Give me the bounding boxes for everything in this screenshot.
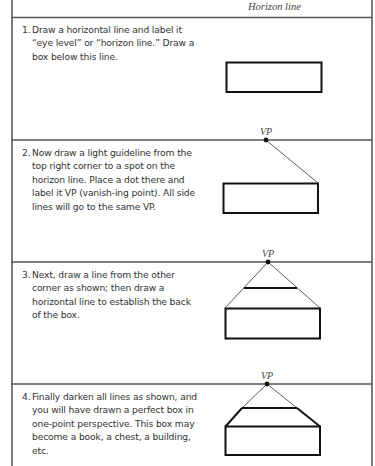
vanishing-point-dot (265, 382, 270, 387)
step-number: 3. (22, 268, 30, 281)
vp-label-step-3: VP (262, 248, 274, 259)
vanishing-point-dot (264, 138, 269, 143)
perspective-instruction-page: Horizon line (0, 0, 375, 466)
guideline-right (267, 384, 297, 408)
box-step-3 (226, 309, 321, 339)
guideline-right (266, 140, 318, 183)
drawing-step-2 (224, 138, 319, 213)
box-step-2 (224, 184, 319, 214)
step-3-instruction: 3. Next, draw a line from the other corn… (22, 268, 202, 322)
step-number: 4. (22, 390, 30, 403)
step-4-instruction: 4. Finally darken all lines as shown, an… (22, 390, 202, 457)
step-number: 2. (22, 146, 30, 159)
box-step-4 (226, 427, 321, 456)
step-text: Draw a horizontal line and label it “eye… (22, 23, 202, 63)
box-step-1 (227, 63, 322, 93)
step-2-instruction: 2. Now draw a light guideline from the t… (22, 146, 202, 213)
side-edge-right (297, 408, 320, 427)
step-number: 1. (22, 23, 30, 36)
side-edge-left (226, 408, 243, 427)
vp-label-step-4: VP (261, 370, 273, 381)
step-text: Now draw a light guideline from the top … (22, 146, 202, 213)
step-1-instruction: 1. Draw a horizontal line and label it “… (22, 23, 202, 63)
drawing-step-4 (226, 382, 321, 455)
step-text: Next, draw a line from the other corner … (22, 268, 202, 322)
step-text: Finally darken all lines as shown, and y… (22, 390, 202, 457)
vp-label-step-2: VP (260, 126, 272, 137)
guideline-left (242, 384, 267, 408)
drawing-step-3 (225, 260, 320, 339)
guideline-right (268, 262, 320, 308)
vanishing-point-dot (266, 260, 271, 265)
guideline-left (225, 262, 268, 308)
